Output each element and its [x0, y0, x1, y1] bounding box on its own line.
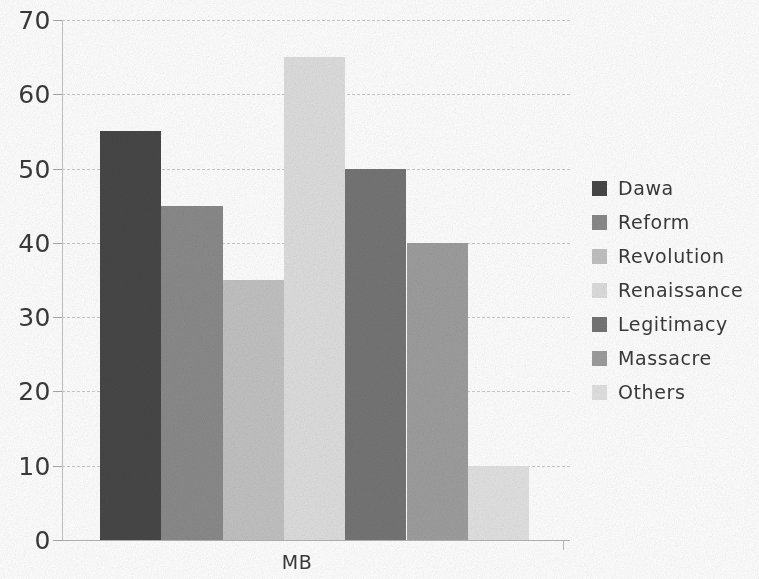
- legend-label: Massacre: [618, 347, 712, 369]
- bar-chart: 706050403020100 MB DawaReformRevolutionR…: [0, 0, 759, 579]
- legend-swatch-icon: [592, 249, 607, 264]
- bar-legitimacy: [345, 169, 406, 540]
- y-axis-tick-30: [53, 317, 62, 318]
- legend-swatch-icon: [592, 385, 607, 400]
- bar-massacre: [407, 243, 468, 540]
- y-axis-tick-label: 10: [18, 453, 51, 478]
- y-axis-tick-10: [53, 466, 62, 467]
- legend-item-dawa[interactable]: Dawa: [592, 171, 743, 205]
- y-axis-tick-60: [53, 94, 62, 95]
- plot-area: 706050403020100: [62, 20, 570, 540]
- y-axis-tick-40: [53, 243, 62, 244]
- legend-item-legitimacy[interactable]: Legitimacy: [592, 307, 743, 341]
- y-axis-tick-label: 0: [35, 528, 51, 553]
- y-axis-tick-70: [53, 20, 62, 21]
- y-axis-tick-label: 70: [18, 8, 51, 33]
- legend-swatch-icon: [592, 317, 607, 332]
- legend-label: Revolution: [618, 245, 725, 267]
- y-axis-tick-20: [53, 391, 62, 392]
- legend-label: Renaissance: [618, 279, 743, 301]
- legend-swatch-icon: [592, 215, 607, 230]
- gridline-0: [62, 540, 570, 541]
- x-axis-label: MB: [62, 551, 532, 573]
- y-axis-tick-label: 50: [18, 156, 51, 181]
- x-axis-end-tick: [563, 540, 564, 550]
- bar-group: [62, 20, 570, 540]
- legend-swatch-icon: [592, 181, 607, 196]
- y-axis-tick-label: 30: [18, 305, 51, 330]
- y-axis-tick-50: [53, 169, 62, 170]
- bar-reform: [161, 206, 222, 540]
- bar-others: [468, 466, 529, 540]
- y-axis-tick-label: 20: [18, 379, 51, 404]
- legend-swatch-icon: [592, 283, 607, 298]
- legend-label: Reform: [618, 211, 690, 233]
- legend: DawaReformRevolutionRenaissanceLegitimac…: [592, 171, 743, 409]
- legend-item-revolution[interactable]: Revolution: [592, 239, 743, 273]
- legend-item-renaissance[interactable]: Renaissance: [592, 273, 743, 307]
- bar-dawa: [100, 131, 161, 540]
- y-axis-tick-0: [53, 540, 62, 541]
- legend-label: Dawa: [618, 177, 674, 199]
- legend-label: Legitimacy: [618, 313, 728, 335]
- legend-label: Others: [618, 381, 685, 403]
- legend-item-reform[interactable]: Reform: [592, 205, 743, 239]
- legend-item-others[interactable]: Others: [592, 375, 743, 409]
- legend-item-massacre[interactable]: Massacre: [592, 341, 743, 375]
- bar-renaissance: [284, 57, 345, 540]
- bar-revolution: [223, 280, 284, 540]
- legend-swatch-icon: [592, 351, 607, 366]
- y-axis-tick-label: 40: [18, 230, 51, 255]
- y-axis-tick-label: 60: [18, 82, 51, 107]
